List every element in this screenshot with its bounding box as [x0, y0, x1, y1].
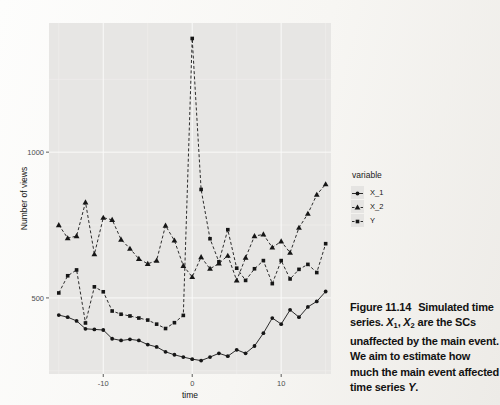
legend-row-Y: Y: [351, 213, 383, 227]
legend-label: Y: [370, 216, 375, 225]
book-page: -10010time5001000Number of views variabl…: [0, 0, 500, 405]
legend-title: variable: [352, 170, 383, 180]
square-marker-icon: [351, 214, 364, 227]
chart-legend: variable X_1X_2Y: [351, 170, 383, 227]
legend-row-X_2: X_2: [351, 199, 383, 213]
x-tick-label: -10: [98, 379, 109, 388]
y-tick-label: 500: [31, 294, 44, 303]
x-tick-label: 0: [190, 379, 194, 388]
caption-figure-label: Figure 11.14: [350, 301, 411, 313]
plot-panel: [49, 23, 331, 374]
x-axis: -10010time: [98, 374, 286, 400]
triangle-marker-icon: [351, 200, 364, 213]
chart-legend-rows: X_1X_2Y: [351, 185, 383, 227]
legend-label: X_2: [370, 202, 383, 211]
caption-text: X: [403, 316, 410, 328]
y-axis-title: Number of views: [19, 167, 29, 230]
legend-label: X_1: [370, 188, 383, 197]
circle-marker-icon: [351, 186, 364, 199]
x-tick-label: 10: [277, 379, 285, 388]
y-tick-label: 1000: [27, 148, 44, 157]
legend-row-X_1: X_1: [351, 185, 383, 199]
time-series-chart: -10010time5001000Number of views: [0, 0, 345, 405]
figure-caption: Figure 11.14Simulated time series. X1, X…: [350, 300, 500, 395]
y-axis: 5001000Number of views: [19, 148, 49, 303]
caption-text: .: [415, 381, 418, 393]
x-axis-title: time: [182, 390, 198, 400]
